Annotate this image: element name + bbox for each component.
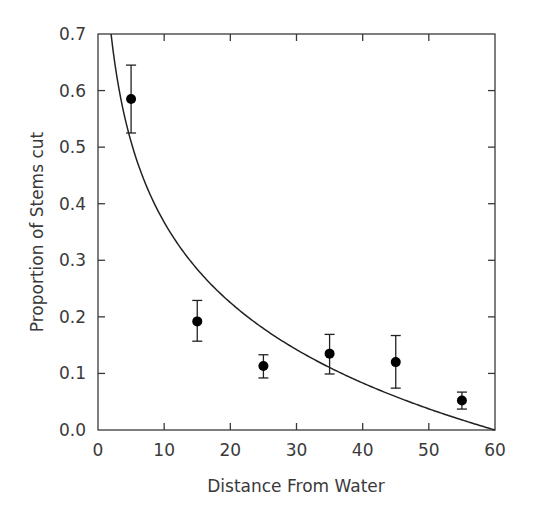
- x-tick-label: 60: [484, 440, 506, 460]
- data-point: [325, 334, 335, 374]
- y-tick-label: 0.3: [59, 250, 86, 270]
- y-tick-label: 0.0: [59, 420, 86, 440]
- marker-dot: [126, 94, 136, 104]
- x-tick-label: 20: [220, 440, 242, 460]
- x-axis-ticks: 0102030405060: [93, 34, 506, 460]
- y-tick-label: 0.4: [59, 194, 86, 214]
- data-point: [192, 300, 202, 341]
- fitted-curve: [111, 34, 495, 430]
- data-point: [457, 392, 467, 409]
- x-tick-label: 10: [153, 440, 175, 460]
- x-axis-label: Distance From Water: [207, 476, 385, 496]
- y-tick-label: 0.6: [59, 81, 86, 101]
- marker-dot: [325, 349, 335, 359]
- data-point: [258, 355, 268, 378]
- x-tick-label: 40: [352, 440, 374, 460]
- data-points: [126, 65, 467, 409]
- y-axis-label: Proportion of Stems cut: [27, 131, 47, 332]
- y-tick-label: 0.5: [59, 137, 86, 157]
- y-tick-label: 0.2: [59, 307, 86, 327]
- marker-dot: [192, 316, 202, 326]
- fitted-curve-line: [111, 34, 495, 430]
- x-tick-label: 0: [93, 440, 104, 460]
- chart: 0102030405060 0.00.10.20.30.40.50.60.7 D…: [0, 0, 539, 518]
- y-tick-label: 0.1: [59, 363, 86, 383]
- data-point: [391, 336, 401, 389]
- data-point: [126, 65, 136, 133]
- plot-frame: [98, 34, 495, 430]
- x-tick-label: 50: [418, 440, 440, 460]
- y-tick-label: 0.7: [59, 24, 86, 44]
- marker-dot: [258, 361, 268, 371]
- x-tick-label: 30: [286, 440, 308, 460]
- marker-dot: [391, 357, 401, 367]
- marker-dot: [457, 396, 467, 406]
- y-axis-ticks: 0.00.10.20.30.40.50.60.7: [59, 24, 495, 440]
